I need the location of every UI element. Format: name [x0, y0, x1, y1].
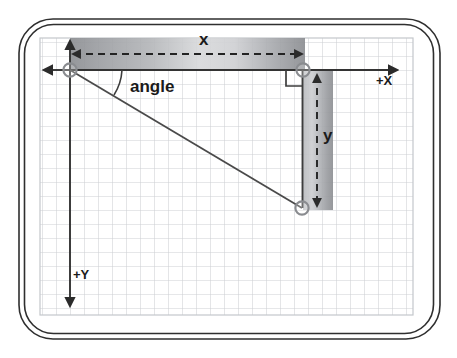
- grid-area: [40, 38, 413, 315]
- y-dimension-label: y: [323, 127, 332, 144]
- x-dimension-label: x: [199, 31, 208, 48]
- positive-x-axis-label: +X: [376, 74, 392, 87]
- diagram-canvas: x y angle +X +Y: [0, 0, 457, 358]
- grid-lines: [40, 38, 413, 315]
- angle-label: angle: [130, 78, 174, 95]
- corner-node[interactable]: [296, 63, 309, 76]
- endpoint-node[interactable]: [295, 201, 308, 214]
- coordinate-diagram-svg: [0, 0, 457, 358]
- origin-node[interactable]: [63, 63, 76, 76]
- positive-y-axis-label: +Y: [73, 268, 89, 281]
